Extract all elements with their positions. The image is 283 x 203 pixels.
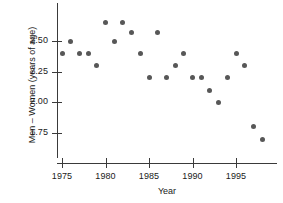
data-point <box>147 75 152 80</box>
x-axis-title: Year <box>57 186 277 196</box>
data-point <box>60 51 65 56</box>
data-point <box>68 39 73 44</box>
data-point <box>173 63 178 68</box>
x-tick-mark <box>193 158 194 168</box>
x-tick-mark <box>106 158 107 168</box>
scatter-plot-figure: 1.752.002.252.50 19751980198519901995 Me… <box>0 0 283 203</box>
y-tick-mark <box>52 102 62 103</box>
plot-area: 1.752.002.252.50 19751980198519901995 Me… <box>0 0 283 203</box>
y-tick-mark <box>52 41 62 42</box>
x-tick-label: 1980 <box>86 171 126 181</box>
y-tick-mark <box>52 72 62 73</box>
y-axis-title: Men – Women (years of age) <box>27 5 37 165</box>
data-point <box>260 137 265 142</box>
data-point <box>77 51 82 56</box>
data-point <box>181 51 186 56</box>
y-tick-mark <box>52 133 62 134</box>
x-axis-line <box>57 163 277 164</box>
x-tick-mark <box>62 158 63 168</box>
data-point <box>112 39 117 44</box>
data-point <box>103 20 108 25</box>
x-tick-label: 1975 <box>42 171 82 181</box>
data-point <box>164 75 169 80</box>
data-point <box>216 100 221 105</box>
x-tick-label: 1985 <box>129 171 169 181</box>
data-point <box>94 63 99 68</box>
data-point <box>129 30 134 35</box>
data-point <box>207 88 212 93</box>
data-point <box>225 75 230 80</box>
data-point <box>242 63 247 68</box>
data-point <box>199 75 204 80</box>
data-point <box>138 51 143 56</box>
x-tick-mark <box>236 158 237 168</box>
data-point <box>190 75 195 80</box>
data-point <box>234 51 239 56</box>
data-point <box>251 124 256 129</box>
data-point <box>120 20 125 25</box>
x-tick-label: 1995 <box>216 171 256 181</box>
data-point <box>86 51 91 56</box>
x-tick-label: 1990 <box>173 171 213 181</box>
data-point <box>155 30 160 35</box>
x-tick-mark <box>149 158 150 168</box>
y-axis-line <box>57 3 58 158</box>
